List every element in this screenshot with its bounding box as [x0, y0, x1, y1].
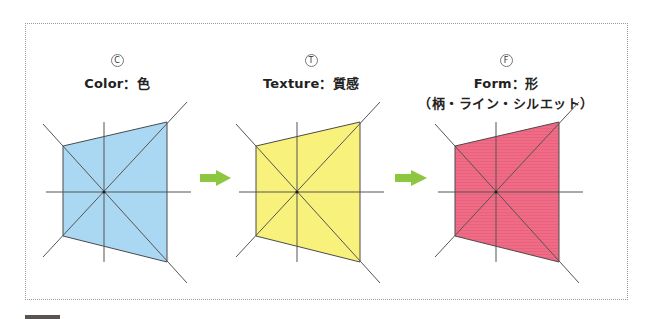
footer-marker	[25, 315, 60, 319]
diagram-texture	[236, 102, 384, 283]
arrow-right-icon	[200, 170, 231, 186]
diagram-color	[43, 102, 191, 283]
diagram-form	[435, 102, 583, 283]
arrow-right-icon	[395, 170, 427, 186]
